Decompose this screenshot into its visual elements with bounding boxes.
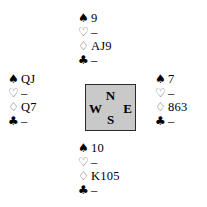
spade-icon: ♠ [8,72,21,86]
spade-icon: ♠ [78,11,91,25]
hand-west: ♠ QJ ♡ – ♢ Q7 ♣ – [8,72,37,128]
west-heart-row: ♡ – [8,86,37,100]
east-spade-row: ♠ 7 [155,72,187,86]
north-heart-row: ♡ – [78,25,112,39]
east-club-cards: – [168,114,174,128]
diamond-icon: ♢ [78,39,91,53]
west-heart-cards: – [21,86,27,100]
south-club-cards: – [91,183,97,197]
north-club-cards: – [91,53,97,67]
compass-label-south: S [86,113,135,126]
east-spade-cards: 7 [168,72,174,86]
south-spade-cards: 10 [91,141,104,155]
hand-north: ♠ 9 ♡ – ♢ AJ9 ♣ – [78,11,112,67]
south-diamond-row: ♢ K105 [78,169,120,183]
hand-east: ♠ 7 ♡ – ♢ 863 ♣ – [155,72,187,128]
south-heart-row: ♡ – [78,155,120,169]
club-icon: ♣ [78,53,91,67]
compass-box: N W E S [85,84,136,131]
north-spade-row: ♠ 9 [78,11,112,25]
heart-icon: ♡ [78,155,91,169]
west-diamond-row: ♢ Q7 [8,100,37,114]
east-heart-cards: – [168,86,174,100]
east-diamond-cards: 863 [168,100,187,114]
south-spade-row: ♠ 10 [78,141,120,155]
west-club-cards: – [21,114,27,128]
diamond-icon: ♢ [8,100,21,114]
north-spade-cards: 9 [91,11,97,25]
north-diamond-row: ♢ AJ9 [78,39,112,53]
club-icon: ♣ [155,114,168,128]
spade-icon: ♠ [155,72,168,86]
bridge-deal-diagram: ♠ 9 ♡ – ♢ AJ9 ♣ – ♠ QJ ♡ – ♢ Q7 ♣ [0,0,207,207]
south-heart-cards: – [91,155,97,169]
heart-icon: ♡ [78,25,91,39]
diamond-icon: ♢ [155,100,168,114]
south-diamond-cards: K105 [91,169,120,183]
east-diamond-row: ♢ 863 [155,100,187,114]
club-icon: ♣ [78,183,91,197]
south-club-row: ♣ – [78,183,120,197]
east-club-row: ♣ – [155,114,187,128]
west-spade-cards: QJ [21,72,35,86]
west-club-row: ♣ – [8,114,37,128]
west-spade-row: ♠ QJ [8,72,37,86]
spade-icon: ♠ [78,141,91,155]
east-heart-row: ♡ – [155,86,187,100]
diamond-icon: ♢ [78,169,91,183]
heart-icon: ♡ [155,86,168,100]
north-club-row: ♣ – [78,53,112,67]
club-icon: ♣ [8,114,21,128]
north-diamond-cards: AJ9 [91,39,112,53]
hand-south: ♠ 10 ♡ – ♢ K105 ♣ – [78,141,120,197]
heart-icon: ♡ [8,86,21,100]
north-heart-cards: – [91,25,97,39]
west-diamond-cards: Q7 [21,100,37,114]
